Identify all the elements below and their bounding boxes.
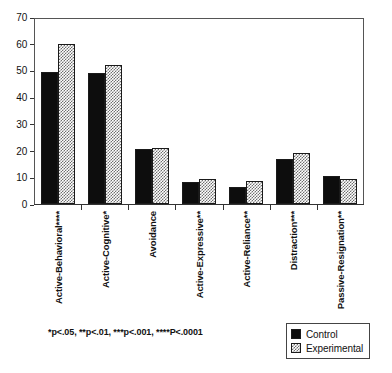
x-axis-label: Avoidance [146,211,157,258]
y-axis: 010203040506070 [0,0,34,206]
x-axis-label-slot: Avoidance [128,211,175,311]
bar-control [135,149,152,204]
x-axis-label-slot: Active-Expressive** [175,211,222,311]
bar-control [323,176,340,204]
y-axis-tick-label: 0 [22,199,30,211]
x-axis-label: Passive-Resignation** [335,211,346,309]
y-axis-tick-label: 10 [16,172,30,184]
y-axis-tick: 10 [16,172,34,184]
legend-label-experimental: Experimental [306,343,363,354]
x-axis-label: Active-Cognitive* [99,211,110,288]
bars-layer [35,19,363,204]
y-axis-tick: 50 [16,65,34,77]
bar-group [129,19,176,204]
x-axis-label-slot: Active-Behavioral**** [34,211,81,311]
y-axis-tick-label: 50 [16,65,30,77]
x-axis-labels: Active-Behavioral****Active-Cognitive*Av… [34,211,364,311]
bar-control [182,182,199,204]
y-axis-tick-label: 30 [16,119,30,131]
plot-area [34,18,364,205]
y-axis-tick-label: 20 [16,146,30,158]
bar-experimental [246,181,263,205]
bar-group [35,19,82,204]
x-axis-tick-mark [317,205,318,210]
legend-swatch-control-icon [291,329,301,339]
y-axis-tick: 20 [16,146,34,158]
x-axis-label-slot: Active-Cognitive* [81,211,128,311]
x-axis-tick-mark [175,205,176,210]
bar-group [176,19,223,204]
x-axis-tick-mark [270,205,271,210]
legend-item-experimental: Experimental [291,341,363,355]
bar-control [229,187,246,204]
x-axis-label: Active-Expressive** [193,211,204,298]
bar-chart-figure: 010203040506070 Active-Behavioral****Act… [0,0,392,373]
y-axis-tick: 40 [16,92,34,104]
x-axis-tick-mark [128,205,129,210]
bar-experimental [58,44,75,204]
bar-group [316,19,363,204]
legend-label-control: Control [306,329,338,340]
bar-group [269,19,316,204]
significance-footnote: *p<.05, **p<.01, ***p<.001, ****P<.0001 [48,327,203,337]
bar-control [276,159,293,204]
x-axis-tick-mark [81,205,82,210]
y-axis-tick: 70 [16,12,34,24]
x-axis-label: Active-Reliance** [241,211,252,287]
x-axis-label: Active-Behavioral**** [52,211,63,304]
bar-experimental [340,179,357,204]
y-axis-tick: 30 [16,119,34,131]
y-axis-tick-label: 70 [16,12,30,24]
x-axis-label-slot: Active-Reliance** [223,211,270,311]
y-axis-tick: 0 [22,199,34,211]
y-axis-tick-label: 60 [16,39,30,51]
x-axis-tick-mark [223,205,224,210]
legend-item-control: Control [291,327,363,341]
x-axis-label-slot: Distraction*** [270,211,317,311]
bar-experimental [152,148,169,204]
chart-legend: Control Experimental [286,323,370,359]
bar-control [88,73,105,204]
y-axis-tick-label: 40 [16,92,30,104]
x-axis-ticks [34,205,364,210]
bar-group [82,19,129,204]
bar-experimental [293,153,310,204]
bar-experimental [105,65,122,204]
bar-control [41,72,58,204]
legend-swatch-experimental-icon [291,343,301,353]
x-axis-label-slot: Passive-Resignation** [317,211,364,311]
x-axis-label: Distraction*** [288,211,299,270]
y-axis-tick: 60 [16,39,34,51]
bar-group [222,19,269,204]
bar-experimental [199,179,216,204]
